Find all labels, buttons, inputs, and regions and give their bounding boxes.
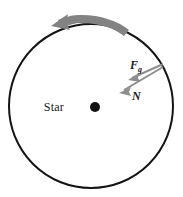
diagram-canvas: Star F g N bbox=[0, 0, 183, 197]
normal-force-label: N bbox=[131, 89, 142, 103]
rotation-arrow-shaft bbox=[58, 15, 129, 36]
star-label: Star bbox=[44, 100, 64, 114]
gravity-force-label-main: F bbox=[129, 58, 138, 72]
star-center-dot bbox=[90, 102, 100, 112]
gravity-force-label-subscript: g bbox=[137, 65, 142, 74]
gravity-force-label: F g bbox=[129, 58, 142, 74]
star-rotation-diagram: Star F g N bbox=[0, 0, 183, 197]
